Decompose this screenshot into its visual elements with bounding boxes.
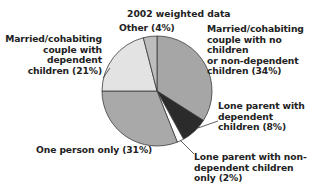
leader-line-lone-nondependent xyxy=(180,140,194,154)
slice-label-lone-dependent: Lone parent with dependent children (8%) xyxy=(218,101,305,133)
pie-chart: 2002 weighted data Other (4%) Married/co… xyxy=(0,0,325,194)
slice-label-couple-no-children: Married/cohabiting couple with no childr… xyxy=(207,24,325,77)
slice-label-other: Other (4%) xyxy=(119,23,175,34)
chart-title: 2002 weighted data xyxy=(127,8,231,19)
slice-label-lone-nondependent: Lone parent with non- dependent children… xyxy=(194,152,307,184)
pie-slices xyxy=(102,36,212,146)
slice-label-couple-dependent: Married/cohabiting couple with dependent… xyxy=(5,34,102,76)
slice-label-one-person: One person only (31%) xyxy=(36,145,152,156)
